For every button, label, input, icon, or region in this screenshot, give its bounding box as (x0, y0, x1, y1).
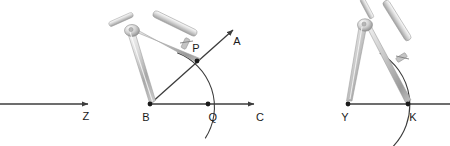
label-Q: Q (209, 111, 218, 123)
construction-figure: Z (0, 0, 450, 146)
label-P: P (192, 42, 200, 54)
point-Q (206, 102, 211, 107)
compass-handle-rod (360, 0, 375, 19)
label-C: C (256, 111, 264, 123)
compass-right (347, 0, 413, 102)
label-B: B (142, 111, 150, 123)
panel-left: Z (0, 104, 90, 122)
point-Y (346, 102, 351, 107)
panel-middle: P A B Q C (108, 10, 264, 139)
compass-pencil-clamp (181, 37, 190, 49)
geometry-canvas: Z (0, 0, 450, 146)
label-A: A (233, 35, 241, 47)
compass-pencil-barrel (152, 10, 198, 37)
compass-hinge-screw (129, 27, 133, 31)
label-K: K (409, 111, 417, 123)
compass-hinge-screw (362, 22, 366, 26)
panel-right: Y K (341, 0, 450, 146)
compass-pencil-barrel (382, 0, 412, 42)
compass-needle-highlight (130, 32, 153, 102)
point-K (406, 102, 411, 107)
label-Z: Z (83, 110, 90, 122)
compass-needle-highlight (350, 27, 362, 99)
label-Y: Y (341, 111, 349, 123)
compass-needle-leg (347, 24, 368, 101)
arc-PQ (177, 53, 214, 139)
point-P (195, 59, 200, 64)
point-B (148, 102, 153, 107)
